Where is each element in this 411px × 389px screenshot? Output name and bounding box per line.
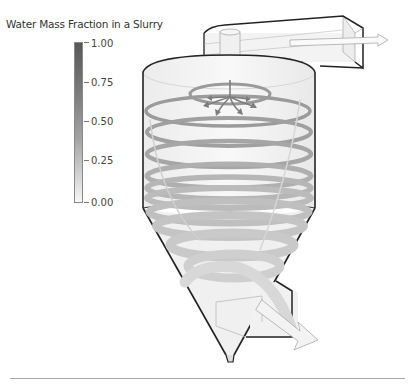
hydrocyclone-diagram (0, 0, 411, 389)
underflow-apex (226, 355, 234, 362)
bottom-divider (10, 378, 405, 379)
